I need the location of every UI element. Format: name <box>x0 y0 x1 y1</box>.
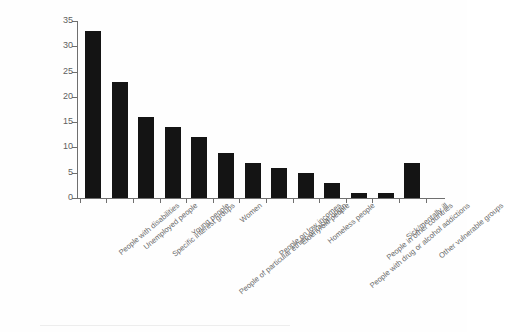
bar <box>245 163 261 198</box>
bar <box>378 193 394 198</box>
bars-group <box>77 21 447 198</box>
bar <box>112 82 128 198</box>
bar <box>218 153 234 199</box>
bar <box>191 137 207 198</box>
scan-artifact-line <box>40 325 290 326</box>
bar <box>165 127 181 198</box>
y-tick-label: 0 <box>68 191 73 204</box>
bar <box>85 31 101 198</box>
y-tick-label: 25 <box>63 65 73 78</box>
y-tick-label: 10 <box>63 140 73 153</box>
bar <box>404 163 420 198</box>
y-tick-label: 5 <box>68 166 73 179</box>
y-tick-0: 0 <box>77 198 78 199</box>
y-tick-label: 20 <box>63 90 73 103</box>
bar <box>324 183 340 198</box>
category-label: Women <box>238 201 264 225</box>
y-tick-label: 35 <box>63 14 73 27</box>
bar <box>298 173 314 198</box>
y-tick-label: 15 <box>63 115 73 128</box>
category-labels: People with disabilitiesUnemployed peopl… <box>77 201 467 332</box>
bar <box>138 117 154 198</box>
plot-area: 05101520253035 <box>77 21 447 198</box>
bar <box>351 193 367 198</box>
bar <box>271 168 287 198</box>
y-tick-label: 30 <box>63 39 73 52</box>
